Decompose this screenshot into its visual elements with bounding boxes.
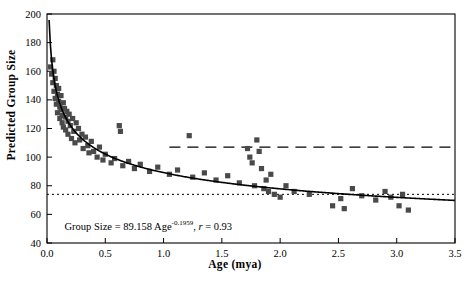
data-point	[373, 197, 378, 202]
scatter-plot: 4060801001201401601802000.00.51.01.52.02…	[0, 0, 470, 282]
data-point	[132, 166, 137, 171]
data-point	[245, 146, 250, 151]
data-point	[74, 120, 79, 125]
data-point	[100, 157, 105, 162]
y-axis-title-text: Predicted Group Size	[5, 50, 17, 161]
data-point	[118, 129, 123, 134]
y-tick-label: 60	[31, 209, 42, 220]
power-fit-curve	[49, 20, 455, 200]
y-tick-label: 100	[25, 152, 41, 163]
data-point	[86, 150, 91, 155]
plot-frame	[47, 14, 455, 243]
y-tick-label: 80	[31, 180, 42, 191]
data-point	[175, 167, 180, 172]
data-point-group	[48, 57, 411, 212]
data-point	[58, 93, 63, 98]
y-tick-label: 160	[25, 66, 41, 77]
data-point	[268, 172, 273, 177]
data-point	[76, 126, 81, 131]
data-point	[400, 192, 405, 197]
y-tick-label: 120	[25, 123, 41, 134]
chart-container: 4060801001201401601802000.00.51.01.52.02…	[0, 0, 470, 282]
y-tick-label: 200	[25, 9, 41, 20]
data-point	[247, 155, 252, 160]
y-tick-label: 140	[25, 94, 41, 105]
x-axis-title: Age (mya)	[0, 258, 470, 270]
equation-annotation: Group Size = 89.158 Age-0.1959, r = 0.93	[64, 219, 232, 232]
data-point	[342, 206, 347, 211]
data-point	[257, 149, 262, 154]
y-tick-label: 40	[31, 238, 42, 249]
data-point	[338, 196, 343, 201]
data-point	[254, 137, 259, 142]
data-point	[406, 207, 411, 212]
data-point	[350, 186, 355, 191]
data-point	[272, 192, 277, 197]
data-point	[61, 100, 66, 105]
data-point	[396, 203, 401, 208]
data-point	[382, 189, 387, 194]
data-point	[97, 145, 102, 150]
data-point	[250, 160, 255, 165]
data-point	[89, 139, 94, 144]
data-point	[264, 177, 269, 182]
data-point	[202, 170, 207, 175]
data-point	[225, 173, 230, 178]
data-point	[117, 123, 122, 128]
data-point	[187, 133, 192, 138]
data-point	[278, 195, 283, 200]
y-axis-title: Predicted Group Size	[4, 20, 18, 190]
data-point	[72, 140, 77, 145]
data-point	[283, 183, 288, 188]
data-point	[266, 189, 271, 194]
data-point	[307, 192, 312, 197]
data-point	[259, 166, 264, 171]
data-point	[120, 163, 125, 168]
data-point	[155, 165, 160, 170]
data-point	[83, 134, 88, 139]
data-point	[95, 155, 100, 160]
data-point	[330, 203, 335, 208]
data-point	[81, 146, 86, 151]
y-tick-label: 180	[25, 37, 41, 48]
